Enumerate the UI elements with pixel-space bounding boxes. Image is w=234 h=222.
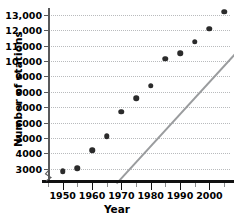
trend-line xyxy=(96,16,234,186)
axis-break-icon xyxy=(43,170,55,182)
y-tick-label: 7000 xyxy=(0,102,42,113)
gridline xyxy=(48,107,230,108)
x-tick-mark xyxy=(121,183,122,190)
y-axis-line xyxy=(48,8,50,180)
gridline xyxy=(48,76,230,77)
data-point xyxy=(119,109,125,115)
x-minor-tick-mark xyxy=(77,183,78,187)
gridline xyxy=(48,153,230,154)
data-point xyxy=(104,134,110,140)
data-point xyxy=(148,83,154,89)
x-tick-mark xyxy=(209,183,210,190)
chart-container: Number of stations Year 3000400050006000… xyxy=(0,0,234,222)
gridline xyxy=(48,138,230,139)
y-tick-label: 6000 xyxy=(0,117,42,128)
data-point xyxy=(177,51,183,57)
x-minor-tick-mark xyxy=(136,183,137,187)
y-tick-label: 13,000 xyxy=(0,9,42,20)
x-minor-tick-mark xyxy=(224,183,225,187)
x-minor-tick-mark xyxy=(48,183,49,187)
x-axis-title: Year xyxy=(0,203,234,215)
y-tick-label: 5000 xyxy=(0,133,42,144)
gridline xyxy=(48,92,230,93)
x-axis-line xyxy=(42,180,234,183)
data-point xyxy=(60,168,66,174)
y-tick-label: 8000 xyxy=(0,86,42,97)
data-point xyxy=(221,9,227,15)
x-minor-tick-mark xyxy=(165,183,166,187)
data-point xyxy=(163,56,169,62)
gridline xyxy=(48,123,230,124)
data-point xyxy=(133,95,139,101)
gridline xyxy=(48,61,230,62)
x-tick-mark xyxy=(180,183,181,190)
x-minor-tick-mark xyxy=(195,183,196,187)
y-tick-label: 12,000 xyxy=(0,25,42,36)
x-tick-mark xyxy=(92,183,93,190)
gridline xyxy=(48,46,230,47)
data-point xyxy=(192,39,198,45)
plot-area xyxy=(48,8,230,178)
gridline xyxy=(48,30,230,31)
data-point xyxy=(207,26,213,32)
x-tick-mark xyxy=(151,183,152,190)
gridline xyxy=(48,15,230,16)
y-tick-label: 10,000 xyxy=(0,56,42,67)
y-tick-label: 9000 xyxy=(0,71,42,82)
y-tick-label: 11,000 xyxy=(0,40,42,51)
x-tick-label: 2000 xyxy=(189,190,229,201)
x-minor-tick-mark xyxy=(107,183,108,187)
x-tick-mark xyxy=(63,183,64,190)
y-tick-label: 4000 xyxy=(0,148,42,159)
data-point xyxy=(75,165,81,171)
data-point xyxy=(89,148,95,154)
y-tick-label: 3000 xyxy=(0,163,42,174)
